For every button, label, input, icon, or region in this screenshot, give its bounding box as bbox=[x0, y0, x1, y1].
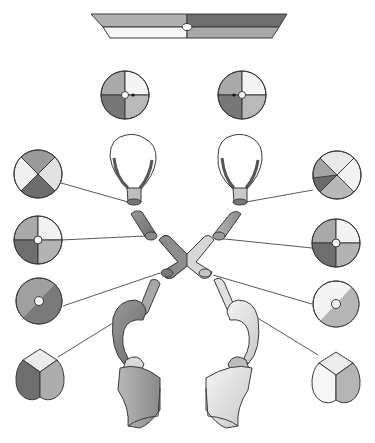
left-eye-field bbox=[101, 71, 149, 119]
right-field-lgn-heart bbox=[312, 352, 360, 403]
visual-pathway-diagram bbox=[0, 0, 375, 443]
left-field-optic-tract bbox=[16, 278, 62, 324]
left-field-optic-nerve bbox=[14, 150, 62, 198]
right-field-optic-nerve-distal bbox=[312, 219, 360, 267]
left-eyeball bbox=[110, 134, 156, 205]
right-optic-tract-and-radiation bbox=[206, 278, 259, 428]
diagram-canvas bbox=[0, 0, 375, 443]
left-optic-nerve-segment bbox=[131, 211, 157, 240]
right-optic-nerve-segment bbox=[213, 212, 241, 241]
right-field-optic-tract bbox=[313, 281, 359, 327]
left-optic-tract-and-radiation bbox=[112, 280, 160, 429]
right-field-optic-nerve bbox=[313, 151, 361, 199]
right-eyeball bbox=[218, 134, 262, 205]
left-field-lgn-heart bbox=[16, 349, 64, 400]
right-eye-field bbox=[218, 71, 266, 119]
blind-spot-dot bbox=[232, 93, 235, 96]
left-field-optic-nerve-distal bbox=[14, 216, 62, 264]
optic-chiasm bbox=[159, 235, 214, 278]
blind-spot-dot bbox=[131, 93, 134, 96]
visual-field-bar bbox=[91, 14, 287, 38]
connector-lines bbox=[58, 183, 318, 357]
